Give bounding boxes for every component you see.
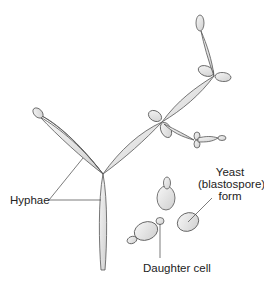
yeast-cell (157, 186, 175, 210)
dimorphism-drawing (0, 0, 264, 286)
label-daughter-cell: Daughter cell (143, 262, 211, 274)
label-yeast-line1: Yeast (198, 166, 262, 178)
daughter-cell (156, 218, 164, 225)
label-yeast-line2: (blastospore) (198, 178, 262, 190)
hypha-left-tip (31, 106, 45, 120)
label-yeast-line3: form (198, 190, 262, 202)
label-yeast-form: Yeast (blastospore) form (198, 166, 262, 202)
hypha-left-branch (40, 117, 103, 174)
hypha-stalk (99, 174, 106, 270)
label-hyphae: Hyphae (10, 194, 50, 206)
hypha-right-branch (103, 122, 162, 174)
yeast-bud (164, 177, 171, 189)
